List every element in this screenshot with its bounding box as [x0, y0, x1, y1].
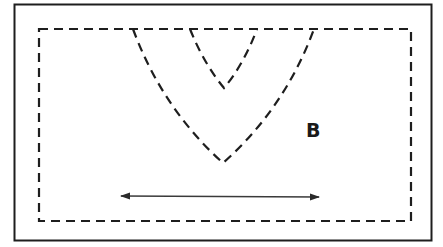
outer-v-shape: [133, 29, 314, 163]
region-label-b: B: [306, 121, 320, 140]
outer-frame: [15, 5, 432, 241]
inner-v-shape: [190, 29, 257, 88]
diagram-canvas: [0, 0, 443, 247]
double-arrow: [121, 196, 319, 197]
inner-dashed-frame: [39, 29, 411, 221]
